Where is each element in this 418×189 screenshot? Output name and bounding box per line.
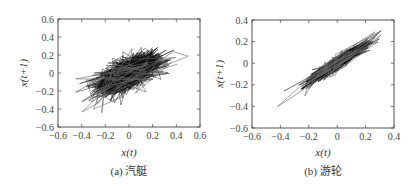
plot-b: −0.6−0.4−0.200.20.40.40.20−0.2−0.4−0.6 x…	[213, 15, 400, 179]
y-tick-label: 0	[243, 58, 248, 69]
x-tick-label: 0	[335, 131, 340, 142]
x-tick-label: 0.2	[359, 131, 372, 142]
x-tick-label: −0.4	[271, 131, 289, 142]
plot-a-ylabel: x(t+1)	[17, 59, 30, 89]
y-tick-label: −0.2	[230, 79, 248, 90]
y-tick-label: 0.2	[236, 36, 249, 47]
plot-a-xlabel: x(t)	[120, 146, 137, 159]
plot-b-xlabel: x(t)	[314, 146, 331, 159]
trajectory-b	[278, 31, 382, 107]
y-tick-label: 0.4	[236, 15, 249, 26]
y-tick-label: −0.2	[36, 86, 54, 97]
trajectory-a	[76, 47, 188, 113]
plot-b-ylabel: x(t+1)	[213, 60, 226, 90]
x-tick-label: 0.4	[170, 130, 183, 141]
y-tick-label: 0	[49, 68, 54, 79]
y-tick-label: 0.6	[42, 14, 55, 25]
x-tick-label: −0.4	[73, 130, 91, 141]
x-tick-label: 0.4	[388, 131, 401, 142]
plot-b-caption: (b) 游轮	[304, 164, 342, 178]
y-tick-label: −0.6	[230, 123, 248, 134]
y-tick-label: 0.2	[42, 50, 55, 61]
plot-a-caption: (a) 汽艇	[111, 164, 148, 178]
x-tick-label: 0.2	[146, 130, 159, 141]
y-tick-label: 0.4	[42, 32, 55, 43]
x-tick-label: −0.2	[96, 130, 114, 141]
y-tick-label: −0.4	[36, 104, 54, 115]
figure: −0.6−0.4−0.200.20.40.60.60.40.20−0.2−0.4…	[0, 0, 418, 189]
y-tick-label: −0.4	[230, 101, 248, 112]
x-tick-label: 0	[127, 130, 132, 141]
y-tick-label: −0.6	[36, 122, 54, 133]
x-tick-label: 0.6	[194, 130, 207, 141]
x-tick-label: −0.2	[300, 131, 318, 142]
plot-a: −0.6−0.4−0.200.20.40.60.60.40.20−0.2−0.4…	[17, 14, 206, 179]
